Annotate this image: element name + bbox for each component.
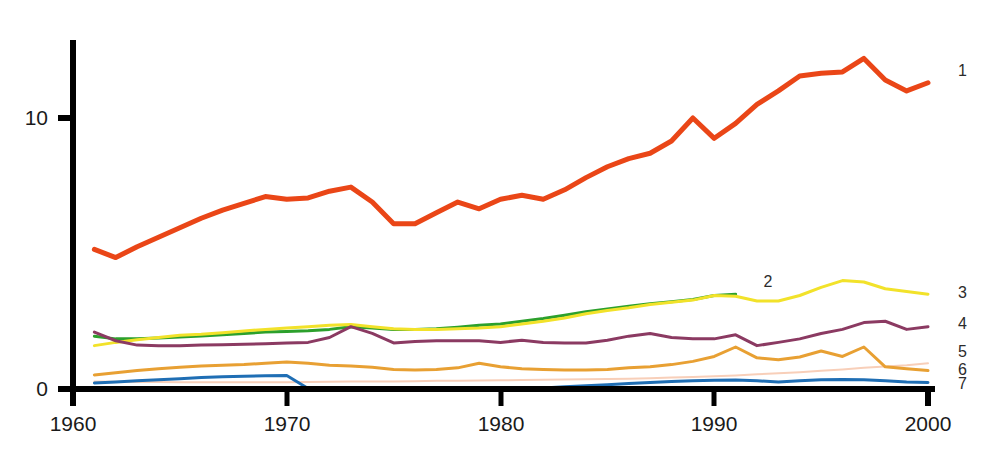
series-label-7: 7 bbox=[958, 375, 967, 393]
series-label-5: 5 bbox=[958, 343, 967, 361]
series-line-2 bbox=[94, 294, 735, 339]
y-axis-tick-label-10: 10 bbox=[12, 106, 48, 130]
x-axis-tick-label-1960: 1960 bbox=[50, 412, 97, 436]
line-chart: 10 0 1960 1970 1980 1990 2000 1234567 bbox=[0, 0, 990, 457]
y-axis-tick-label-0: 0 bbox=[12, 377, 48, 401]
x-axis-tick-label-1970: 1970 bbox=[264, 412, 311, 436]
x-axis-tick-label-1980: 1980 bbox=[478, 412, 525, 436]
series-line-6 bbox=[94, 347, 928, 375]
chart-plot-area bbox=[0, 0, 990, 457]
series-label-1: 1 bbox=[958, 62, 967, 80]
x-axis-tick-label-2000: 2000 bbox=[905, 412, 952, 436]
series-label-3: 3 bbox=[958, 284, 967, 302]
series-line-1 bbox=[94, 58, 928, 257]
series-layer bbox=[94, 58, 928, 388]
series-label-2: 2 bbox=[763, 273, 772, 291]
series-label-4: 4 bbox=[958, 315, 967, 333]
x-axis-tick-label-1990: 1990 bbox=[691, 412, 738, 436]
